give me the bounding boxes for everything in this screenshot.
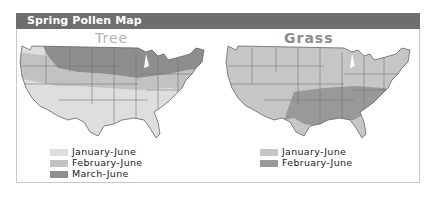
swatch-february-june	[50, 160, 68, 167]
swatch-february-june	[260, 160, 278, 167]
swatch-march-june	[50, 171, 68, 178]
grass-pollen-map	[224, 44, 420, 142]
panel-header: Spring Pollen Map	[16, 13, 420, 29]
tree-pollen-map	[18, 44, 214, 142]
legend-label: February-June	[282, 157, 352, 169]
panel-title: Spring Pollen Map	[27, 14, 142, 28]
swatch-january-june	[50, 149, 68, 156]
swatch-january-june	[260, 149, 278, 156]
legend-label: March-June	[72, 168, 129, 180]
